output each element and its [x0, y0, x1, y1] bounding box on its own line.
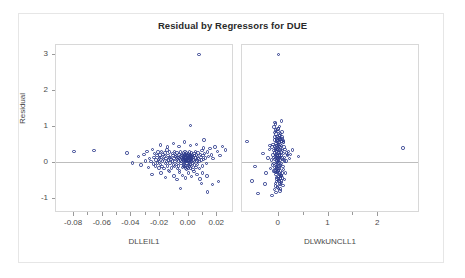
scatter-point [268, 144, 271, 147]
scatter-panel-left[interactable] [55, 44, 233, 212]
x-tick-mark-minor [87, 212, 88, 215]
x-tick-mark [278, 212, 279, 216]
scatter-point [218, 154, 221, 157]
scatter-point [273, 169, 276, 172]
x-axis-label-left: DLLEIL1 [55, 237, 233, 246]
scatter-point [144, 159, 147, 162]
scatter-point [211, 157, 214, 160]
scatter-point [125, 151, 128, 154]
scatter-point [206, 150, 209, 153]
scatter-point [172, 142, 175, 145]
y-tick-label: 0 [26, 157, 48, 166]
scatter-point [288, 157, 291, 160]
scatter-point [197, 53, 200, 56]
scatter-point [275, 148, 278, 151]
scatter-point [184, 176, 187, 179]
chart-screenshot: Residual by Regressors for DUE Residual … [0, 0, 465, 278]
scatter-point [275, 166, 278, 169]
x-tick-mark [102, 212, 103, 216]
scatter-point [189, 144, 192, 147]
scatter-point [202, 146, 205, 149]
scatter-point [187, 171, 190, 174]
scatter-point [195, 173, 198, 176]
x-tick-mark [159, 212, 160, 216]
scatter-point [150, 173, 153, 176]
x-axis-label-right: DLWkUNCLL1 [241, 237, 419, 246]
scatter-point [273, 121, 276, 124]
scatter-point [208, 147, 211, 150]
x-tick-mark [188, 212, 189, 216]
x-tick-mark [377, 212, 378, 216]
scatter-point [250, 179, 253, 182]
scatter-point [189, 124, 192, 127]
x-tick-mark [73, 212, 74, 216]
scatter-point [245, 140, 248, 143]
x-tick-label: 0.02 [196, 218, 236, 227]
scatter-point [213, 145, 216, 148]
scatter-point [211, 183, 214, 186]
scatter-panel-right[interactable] [241, 44, 419, 212]
x-tick-label: 0 [258, 218, 298, 227]
x-tick-mark [328, 212, 329, 216]
scatter-point [401, 146, 404, 149]
x-tick-label: 2 [357, 218, 397, 227]
scatter-point [166, 145, 169, 148]
scatter-point [202, 138, 205, 141]
scatter-point [278, 125, 281, 128]
scatter-point [206, 190, 209, 193]
scatter-point [72, 150, 75, 153]
scatter-point [205, 174, 208, 177]
x-tick-mark [130, 212, 131, 216]
scatter-point [142, 153, 145, 156]
scatter-point [201, 171, 204, 174]
scatter-point [279, 187, 282, 190]
x-tick-mark-minor [303, 212, 304, 215]
scatter-point [263, 182, 266, 185]
scatter-point [151, 148, 154, 151]
scatter-point [190, 175, 193, 178]
zero-reference-line [242, 162, 418, 163]
x-tick-mark-minor [202, 212, 203, 215]
x-tick-label: 1 [308, 218, 348, 227]
scatter-point [198, 177, 201, 180]
scatter-point [162, 167, 165, 170]
scatter-point [277, 53, 280, 56]
scatter-point [147, 166, 150, 169]
scatter-point [297, 155, 300, 158]
scatter-point [164, 176, 167, 179]
scatter-point [291, 148, 294, 151]
y-tick-label: 3 [26, 49, 48, 58]
scatter-point [289, 153, 292, 156]
scatter-point [131, 161, 134, 164]
scatter-point [183, 140, 186, 143]
scatter-point [179, 187, 182, 190]
x-tick-mark-minor [352, 212, 353, 215]
scatter-point [92, 149, 95, 152]
scatter-point [175, 178, 178, 181]
scatter-point [256, 192, 259, 195]
scatter-point [270, 194, 273, 197]
scatter-point [283, 178, 286, 181]
x-tick-mark-minor [145, 212, 146, 215]
scatter-point [274, 191, 277, 194]
scatter-point [200, 182, 203, 185]
scatter-point [217, 180, 220, 183]
scatter-point [195, 143, 198, 146]
scatter-point [281, 184, 284, 187]
scatter-point [216, 150, 219, 153]
scatter-point [205, 162, 208, 165]
scatter-point [145, 150, 148, 153]
x-tick-mark [216, 212, 217, 216]
scatter-point [137, 155, 140, 158]
scatter-point [224, 148, 227, 151]
scatter-point [201, 164, 204, 167]
scatter-point [276, 127, 279, 130]
page-title: Residual by Regressors for DUE [0, 20, 465, 31]
scatter-point [168, 170, 171, 173]
y-tick-label: -1 [26, 193, 48, 202]
scatter-point [159, 143, 162, 146]
scatter-point [166, 164, 169, 167]
scatter-point [280, 119, 283, 122]
scatter-point [139, 163, 142, 166]
scatter-point [196, 163, 199, 166]
